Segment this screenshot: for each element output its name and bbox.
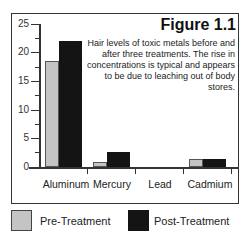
- legend-label-post: Post-Treatment: [154, 215, 229, 227]
- bar-cadmium-pre: [189, 159, 203, 167]
- y-tick-minor: [35, 124, 40, 125]
- x-label-cadmium: Cadmium: [184, 178, 236, 190]
- x-label-lead: Lead: [136, 178, 184, 190]
- x-divider: [231, 167, 232, 174]
- y-tick-label: 10: [13, 105, 29, 115]
- x-divider: [87, 167, 88, 174]
- legend-label-pre: Pre-Treatment: [40, 215, 111, 227]
- bar-mercury-post: [107, 152, 130, 167]
- y-tick-label: 0: [13, 162, 29, 172]
- x-label-mercury: Mercury: [88, 178, 136, 190]
- y-tick-minor: [35, 38, 40, 39]
- y-tick-label: 15: [13, 76, 29, 86]
- y-tick-20: [31, 52, 40, 53]
- x-axis: [29, 167, 238, 169]
- y-tick-label: 20: [13, 47, 29, 57]
- y-tick-25: [31, 24, 40, 25]
- x-label-aluminum: Aluminum: [40, 178, 92, 190]
- y-tick-label: 5: [13, 133, 29, 143]
- legend-swatch-pre: [11, 210, 32, 231]
- y-tick-minor: [35, 67, 40, 68]
- bar-cadmium-post: [203, 159, 226, 167]
- bar-aluminum-pre: [45, 61, 59, 167]
- y-tick-5: [31, 138, 40, 139]
- legend-swatch-post: [128, 210, 149, 231]
- bar-aluminum-post: [59, 41, 82, 167]
- y-tick-minor: [35, 152, 40, 153]
- y-tick-label: 25: [13, 19, 29, 29]
- y-tick-10: [31, 110, 40, 111]
- y-tick-minor: [35, 95, 40, 96]
- y-tick-15: [31, 81, 40, 82]
- x-divider: [135, 167, 136, 174]
- figure-title: Figure 1.1: [160, 16, 236, 34]
- x-divider: [183, 167, 184, 174]
- bar-mercury-pre: [93, 162, 107, 167]
- figure-caption: Hair levels of toxic metals before and a…: [85, 38, 235, 93]
